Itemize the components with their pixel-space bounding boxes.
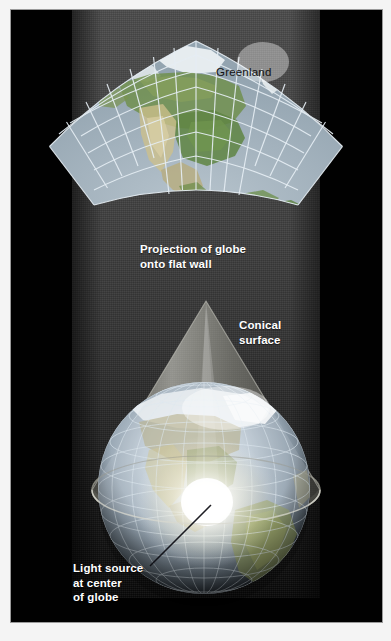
figure-inner-border: Greenland [10, 9, 383, 623]
cone-and-globe [11, 10, 382, 622]
figure-frame: Greenland [0, 0, 391, 641]
diagram-scene: Greenland [11, 10, 382, 622]
projection-label: Projection of globe onto flat wall [140, 242, 246, 271]
light-source-label: Light source at center of globe [73, 561, 143, 605]
conical-surface-label: Conical surface [239, 318, 281, 347]
figure-page: Greenland [0, 0, 391, 641]
